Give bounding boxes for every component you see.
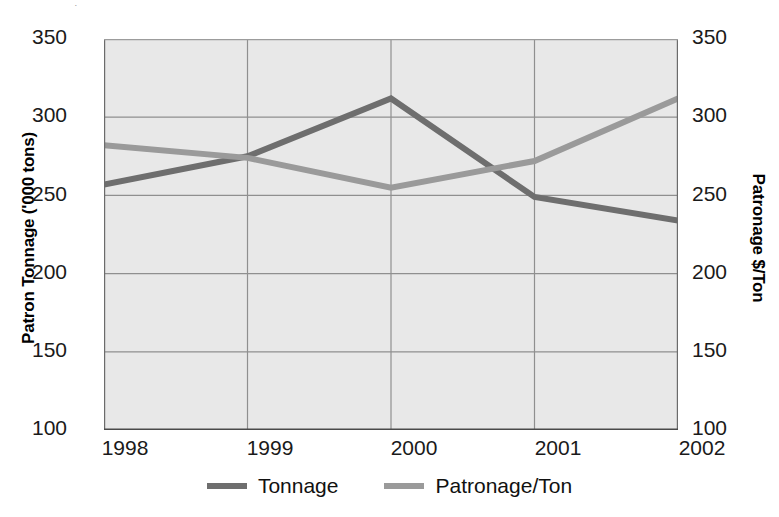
y-axis-left-tick: 100 — [0, 416, 67, 440]
legend-item-patronage-per-ton: Patronage/Ton — [384, 474, 572, 498]
cropped-text-artifact: . — [74, 0, 84, 6]
y-axis-right-tick: 150 — [692, 338, 762, 362]
y-axis-left-tick: 350 — [0, 25, 67, 49]
legend-swatch-icon — [207, 483, 247, 489]
legend-swatch-icon — [384, 483, 424, 489]
y-axis-right-tick: 250 — [692, 182, 762, 206]
y-axis-right-tick: 300 — [692, 103, 762, 127]
y-axis-left-tick: 200 — [0, 260, 67, 284]
plot-area — [104, 39, 678, 430]
legend-label: Patronage/Ton — [435, 474, 572, 498]
legend-label: Tonnage — [258, 474, 339, 498]
chart-container: . Patron Tonnage ('000 tons) Patronage $… — [0, 0, 779, 517]
x-axis-tick: 2000 — [369, 436, 459, 460]
y-axis-right-tick: 200 — [692, 260, 762, 284]
y-axis-left-tick: 150 — [0, 338, 67, 362]
y-axis-left-tick: 250 — [0, 182, 67, 206]
legend-item-tonnage: Tonnage — [207, 474, 339, 498]
x-axis-tick: 2001 — [513, 436, 603, 460]
x-axis-tick: 1998 — [80, 436, 170, 460]
y-axis-left-tick: 300 — [0, 103, 67, 127]
chart-legend: Tonnage Patronage/Ton — [0, 474, 779, 498]
chart-svg — [104, 39, 678, 430]
x-axis-tick: 2002 — [657, 436, 747, 460]
y-axis-right-tick: 350 — [692, 25, 762, 49]
x-axis-tick: 1999 — [225, 436, 315, 460]
